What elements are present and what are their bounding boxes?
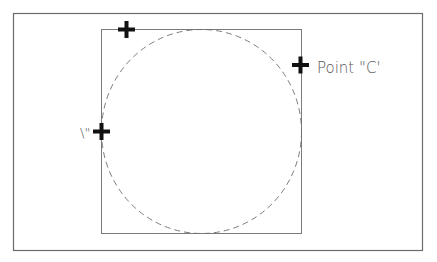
drawing-canvas: Point "C' \" [0,0,437,262]
background [0,0,437,262]
point-c-label: Point "C' [317,59,381,77]
point-a-label-partial: \" [80,125,90,140]
